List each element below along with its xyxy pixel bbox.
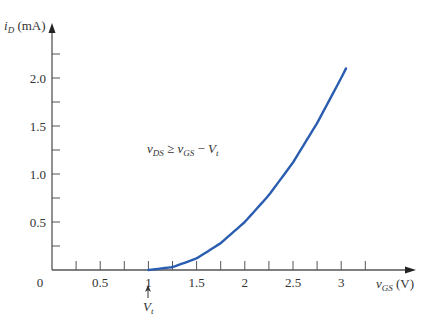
y-axis-label: iD (mA): [4, 18, 46, 35]
id-vgs-curve: [148, 68, 346, 270]
x-tick-label: 3: [338, 275, 345, 290]
tick-labels: 0.511.522.530.51.01.52.0: [30, 71, 345, 291]
y-axis-arrow-icon: [49, 23, 56, 33]
y-tick-label: 1.5: [30, 119, 46, 134]
y-tick-label: 0.5: [30, 215, 46, 230]
chart-canvas: 0.511.522.530.51.01.52.0 iD (mA) vGS (V)…: [0, 0, 430, 327]
y-tick-label: 1.0: [30, 167, 46, 182]
x-axis-label: vGS (V): [376, 276, 414, 293]
vt-label: Vt: [143, 299, 154, 316]
x-tick-label: 2: [242, 275, 249, 290]
x-tick-label: 0.5: [92, 275, 108, 290]
saturation-condition-label: vDS ≥ vGS − Vt: [147, 141, 219, 158]
ticks: [52, 54, 365, 270]
x-tick-label: 1.5: [188, 275, 204, 290]
x-tick-label: 2.5: [285, 275, 301, 290]
axes: [49, 23, 417, 274]
origin-label: 0: [37, 275, 44, 290]
y-tick-label: 2.0: [30, 71, 46, 86]
x-axis-arrow-icon: [405, 267, 416, 274]
